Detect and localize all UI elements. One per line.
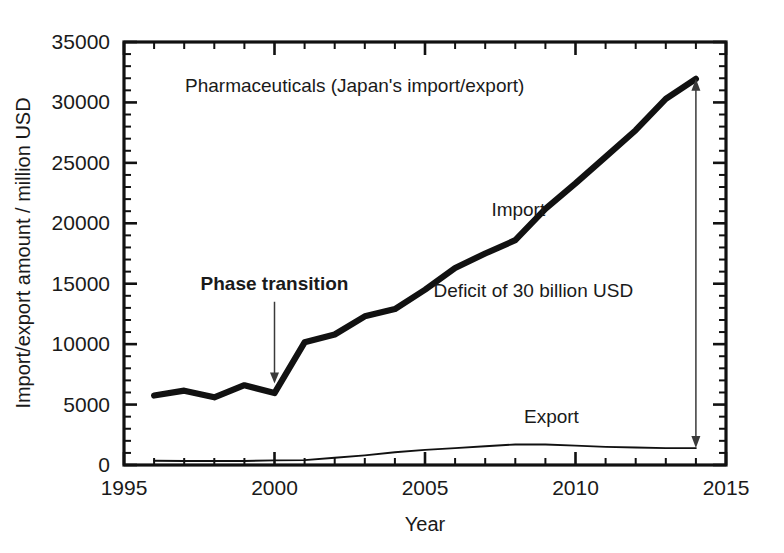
y-tick-label: 30000 — [52, 90, 110, 113]
x-axis-ticks — [124, 42, 726, 465]
series-label-import: Import — [491, 199, 546, 220]
y-tick-label: 5000 — [63, 393, 110, 416]
x-tick-label: 2000 — [251, 476, 298, 499]
figure-caption-cropped — [18, 539, 766, 553]
annotation-phase-transition-label: Phase transition — [201, 273, 349, 294]
y-tick-label: 25000 — [52, 151, 110, 174]
x-tick-label: 2005 — [402, 476, 449, 499]
chart-title: Pharmaceuticals (Japan's import/export) — [185, 75, 524, 96]
annotation-deficit-arrow-head-bottom — [691, 436, 700, 448]
annotation-deficit-label: Deficit of 30 billion USD — [434, 280, 634, 301]
y-tick-label: 0 — [98, 453, 110, 476]
x-axis-title: Year — [405, 513, 446, 535]
chart-canvas: 05000100001500020000250003000035000 1995… — [0, 0, 784, 553]
y-tick-label: 10000 — [52, 332, 110, 355]
x-tick-label: 2015 — [703, 476, 750, 499]
y-axis-ticks — [124, 42, 726, 465]
annotation-deficit: Deficit of 30 billion USD — [434, 79, 701, 448]
series-label-export: Export — [524, 406, 580, 427]
y-tick-label: 20000 — [52, 211, 110, 234]
y-tick-label: 35000 — [52, 30, 110, 53]
x-tick-label: 2010 — [552, 476, 599, 499]
x-tick-label: 1995 — [101, 476, 148, 499]
plot-frame — [124, 42, 726, 465]
y-axis-title: Import/export amount / million USD — [12, 97, 34, 408]
y-axis-tick-labels: 05000100001500020000250003000035000 — [52, 30, 110, 476]
annotation-phase-transition: Phase transition — [201, 273, 349, 384]
series-line-import — [154, 79, 696, 397]
y-tick-label: 15000 — [52, 272, 110, 295]
x-axis-tick-labels: 19952000200520102015 — [101, 476, 750, 499]
figure-panel: 05000100001500020000250003000035000 1995… — [0, 0, 784, 553]
